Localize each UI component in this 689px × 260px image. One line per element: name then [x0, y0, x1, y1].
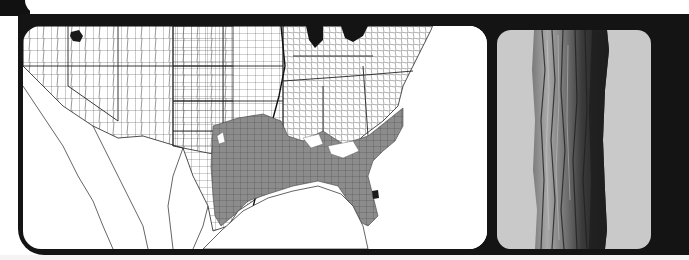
bark-photo-panel — [497, 30, 651, 249]
range-map-panel — [23, 26, 487, 249]
page-margin-left — [0, 14, 18, 260]
previous-panel-bottom — [25, 0, 689, 14]
range-map — [23, 26, 487, 249]
bark-photo — [497, 30, 651, 249]
disjunct-range-florida — [372, 190, 379, 199]
page-margin-bottom — [0, 255, 689, 260]
